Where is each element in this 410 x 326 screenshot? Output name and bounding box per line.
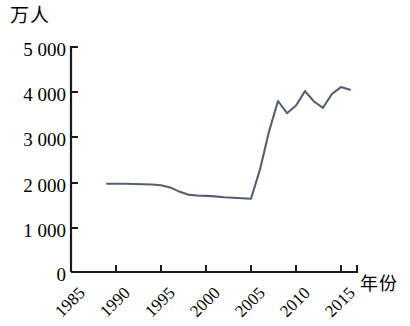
data-series-line (107, 87, 350, 199)
line-chart: 万人 年份 5 000 4 000 3 000 2 000 1 000 0 19… (0, 0, 410, 326)
plot-area (0, 0, 410, 326)
x-axis (71, 265, 358, 272)
y-axis (71, 46, 78, 272)
